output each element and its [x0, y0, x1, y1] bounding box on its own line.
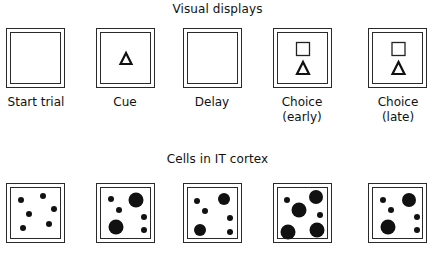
- neuron-dot-icon: [141, 227, 147, 233]
- neuron-dot-icon: [227, 215, 233, 221]
- neuron-dot-icon: [414, 214, 420, 220]
- neuron-dot-icon: [129, 193, 144, 208]
- neuron-dot-icon: [194, 224, 206, 236]
- square-stimulus-icon: [392, 43, 405, 56]
- neuron-dot-icon: [414, 227, 420, 233]
- neuron-dot-icon: [402, 193, 416, 207]
- neuron-dot-icon: [218, 193, 230, 205]
- neuron-dot-icon: [108, 196, 114, 202]
- neuron-dot-icon: [317, 212, 323, 218]
- neuron-dot-icon: [227, 229, 233, 235]
- neuron-dot-icon: [46, 221, 52, 227]
- neuron-dot-icon: [109, 220, 124, 235]
- cell-dots: [18, 190, 420, 240]
- neuron-dot-icon: [40, 193, 46, 199]
- neuron-dot-icon: [26, 211, 32, 217]
- neuron-dot-icon: [51, 206, 57, 212]
- neuron-dot-icon: [380, 197, 386, 203]
- triangle-stimulus-icon: [393, 62, 405, 74]
- neuron-dot-icon: [381, 220, 396, 235]
- shapes-layer: [0, 0, 435, 261]
- neuron-dot-icon: [116, 207, 122, 213]
- neuron-dot-icon: [309, 190, 323, 204]
- neuron-dot-icon: [20, 225, 26, 231]
- square-stimulus-icon: [297, 43, 310, 56]
- neuron-dot-icon: [284, 197, 290, 203]
- triangle-stimulus-icon: [297, 62, 309, 74]
- neuron-dot-icon: [202, 208, 208, 214]
- neuron-dot-icon: [388, 207, 394, 213]
- neuron-dot-icon: [18, 197, 24, 203]
- neuron-dot-icon: [194, 198, 200, 204]
- neuron-dot-icon: [141, 214, 147, 220]
- neuron-dot-icon: [281, 225, 296, 240]
- neuron-dot-icon: [292, 203, 307, 218]
- neuron-dot-icon: [310, 223, 325, 238]
- triangle-stimulus-icon: [121, 53, 132, 64]
